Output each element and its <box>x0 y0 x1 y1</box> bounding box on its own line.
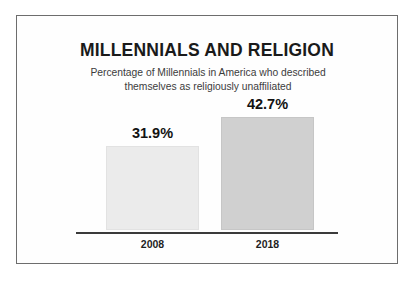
bar-category-label-2008: 2008 <box>106 238 199 250</box>
infographic-frame: MILLENNIALS AND RELIGION Percentage of M… <box>16 15 398 264</box>
bar-2018[interactable] <box>221 117 314 230</box>
bar-value-label-2018: 42.7% <box>221 96 314 112</box>
bar-2008[interactable] <box>106 146 199 230</box>
bar-value-label-2008: 31.9% <box>106 125 199 141</box>
bar-group-2008: 31.9% 2008 <box>106 146 199 230</box>
bar-group-2018: 42.7% 2018 <box>221 117 314 230</box>
bar-category-label-2018: 2018 <box>221 238 314 250</box>
plot-area: 31.9% 2008 42.7% 2018 <box>17 16 397 263</box>
axis-baseline <box>76 232 338 234</box>
